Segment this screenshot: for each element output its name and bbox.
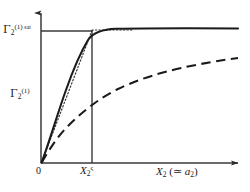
x-axis-base: X [156,165,163,177]
x-axis-paren-close: ) [194,165,198,177]
gamma-symbol: Γ [10,87,18,100]
x-critical-base: X [80,164,87,176]
gamma-sat-suffix: sat [23,24,32,30]
x-axis-paren: (≃ a [166,165,190,177]
figure-container: Γ2(1) sat Γ2(1) 0 X2ς X2 (≃ a2) [0,0,250,192]
plot-canvas [0,0,250,192]
origin-tick-label: 0 [36,166,41,176]
gamma-sat-superscript: (1) [14,23,22,31]
gamma-symbol-sat: Γ [3,23,11,36]
x-axis-label: X2 (≃ a2) [156,166,198,177]
saturating-adsorption-curve [42,28,239,163]
x-critical-superscript: ς [90,164,93,172]
y-axis-saturation-label: Γ2(1) sat [3,24,31,35]
x-critical-tick-label: X2ς [80,165,93,176]
y-axis-label: Γ2(1) [10,88,30,99]
gamma-superscript: (1) [21,87,29,95]
